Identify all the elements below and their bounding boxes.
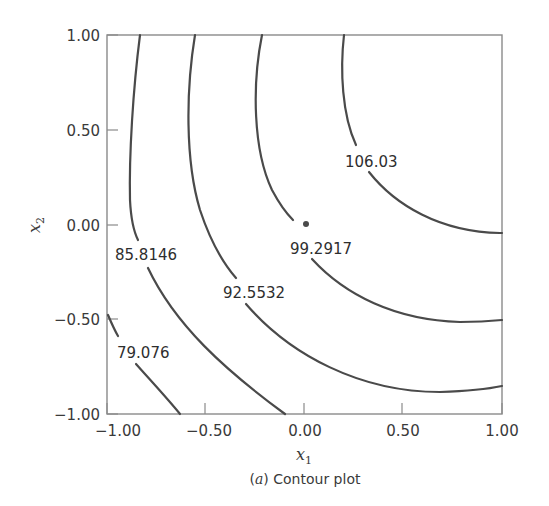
y-axis-title-sub: 2 bbox=[34, 217, 47, 224]
y-tick-label: 0.00 bbox=[67, 217, 100, 235]
contour-label: 79.076 bbox=[117, 344, 170, 362]
y-tick-label: 0.50 bbox=[67, 122, 100, 140]
contour-label: 99.2917 bbox=[290, 240, 352, 258]
y-tick-label: 1.00 bbox=[67, 27, 100, 45]
x-tick-label: 0.50 bbox=[386, 422, 419, 440]
svg-text:x2: x2 bbox=[25, 217, 47, 233]
contour-line-92 bbox=[246, 304, 502, 392]
contour-line-99 bbox=[256, 35, 293, 220]
x-axis-title-sub: 1 bbox=[305, 454, 312, 467]
x-tick-label: 0.00 bbox=[288, 422, 321, 440]
contour-line-99 bbox=[312, 259, 502, 322]
y-tick-label: −1.00 bbox=[54, 406, 100, 424]
y-axis-title: x2 bbox=[25, 217, 47, 233]
contour-label: 92.5532 bbox=[223, 284, 285, 302]
contour-label: 85.8146 bbox=[115, 246, 177, 264]
figure-caption: (a) Contour plot bbox=[250, 471, 361, 487]
contour-line-85 bbox=[130, 35, 140, 240]
x-axis-title-base: x bbox=[296, 445, 305, 464]
contour-line-106 bbox=[342, 35, 356, 145]
contour-line-79 bbox=[136, 364, 180, 414]
x-tick-label: 1.00 bbox=[485, 422, 518, 440]
x-tick-label: −0.50 bbox=[186, 422, 232, 440]
y-axis-title-base: x bbox=[25, 224, 44, 233]
contour-line-92 bbox=[188, 35, 236, 278]
contour-chart: 1.00 0.50 0.00 −0.50 −1.00 −1.00 −0.50 0… bbox=[0, 0, 549, 506]
y-tick-label: −0.50 bbox=[54, 311, 100, 329]
stationary-point-marker bbox=[303, 221, 309, 227]
x-axis-ticks bbox=[107, 403, 502, 414]
contour-line-79 bbox=[108, 315, 118, 336]
x-tick-label: −1.00 bbox=[95, 422, 141, 440]
contour-label: 106.03 bbox=[345, 153, 398, 171]
svg-text:x1: x1 bbox=[296, 445, 312, 467]
x-axis-title: x1 bbox=[296, 445, 312, 467]
contour-line-106 bbox=[369, 172, 502, 233]
